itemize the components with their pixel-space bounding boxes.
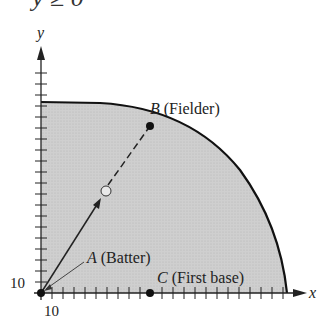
y-tick-label: 10 <box>10 275 25 291</box>
point-c <box>146 289 154 297</box>
x-axis-label: x <box>308 284 316 301</box>
x-axis-arrow-icon <box>293 289 307 297</box>
ball-icon <box>101 186 111 196</box>
label-c: C (First base) <box>157 269 244 287</box>
condition-text: y ≥ 0 <box>29 0 84 12</box>
y-axis-arrow-icon <box>37 46 45 60</box>
label-b: B (Fielder) <box>150 100 220 118</box>
shaded-region <box>41 102 287 293</box>
y-axis-label: y <box>35 24 45 42</box>
point-b <box>146 122 154 130</box>
label-a: A (Batter) <box>86 249 151 267</box>
x-tick-label: 10 <box>44 303 59 319</box>
point-a <box>37 289 45 297</box>
baseball-field-diagram: y ≥ 0 y 10 <box>0 0 329 324</box>
